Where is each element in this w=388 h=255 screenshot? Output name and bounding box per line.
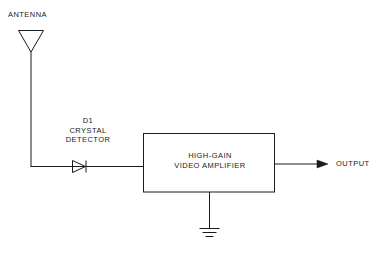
antenna-label: ANTENNA	[8, 10, 47, 20]
arrow-right-icon	[317, 160, 328, 168]
antenna-triangle	[19, 31, 44, 53]
antenna-dipole-icon	[19, 31, 44, 53]
amplifier-block-label: HIGH-GAIN VIDEO AMPLIFIER	[152, 151, 268, 170]
output-label: OUTPUT	[336, 159, 370, 169]
crystal-detector-label: D1 CRYSTAL DETECTOR	[55, 116, 121, 145]
ground-earth-icon	[200, 229, 220, 237]
block-diagram-canvas: ANTENNA D1 CRYSTAL DETECTOR HIGH-GAIN VI…	[0, 0, 388, 255]
